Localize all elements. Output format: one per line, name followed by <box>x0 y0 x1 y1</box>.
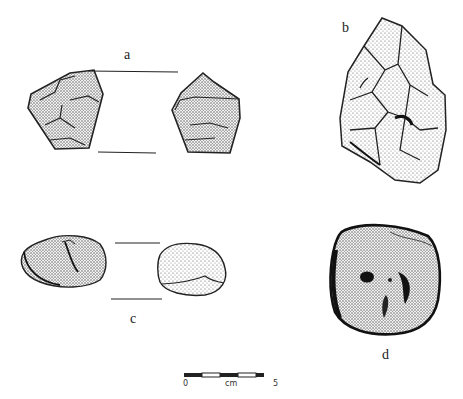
scale-start-label: 0 <box>183 379 188 388</box>
scale-unit-label: cm <box>225 379 237 388</box>
artifact-b-handaxe <box>340 18 446 183</box>
pit-1 <box>360 272 374 283</box>
artifact-c-view-2 <box>158 243 226 295</box>
label-d: d <box>382 347 389 363</box>
scale-bar <box>184 373 264 377</box>
artifact-d-pitted-stone <box>330 225 439 334</box>
archaeological-plate: a b c d 0 cm 5 <box>0 0 463 399</box>
artifact-a-bottom-line <box>98 152 156 153</box>
artifact-a-top-line <box>88 71 178 72</box>
artifact-a-view-1 <box>28 70 103 149</box>
label-b: b <box>342 20 349 36</box>
label-c: c <box>130 311 136 327</box>
artifact-c-view-1 <box>21 236 106 287</box>
label-a: a <box>124 47 130 63</box>
artifact-a-view-2 <box>172 73 240 153</box>
scale-end-label: 5 <box>273 379 278 388</box>
plate-drawing <box>0 0 463 399</box>
